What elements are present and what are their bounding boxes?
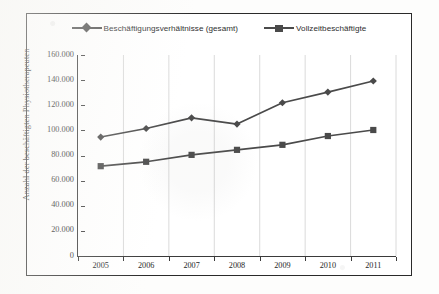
x-tick-mark bbox=[396, 257, 397, 261]
x-tick-mark bbox=[260, 257, 261, 261]
x-tick-mark bbox=[78, 257, 79, 261]
x-tick-label: 2006 bbox=[124, 261, 168, 270]
legend-label-vollzeit: Vollzeitbeschäftigte bbox=[294, 24, 366, 33]
data-point-diamond bbox=[370, 77, 377, 84]
data-point-square bbox=[234, 147, 240, 153]
plot-area bbox=[78, 55, 396, 256]
series-vollzeit bbox=[98, 127, 377, 169]
data-point-square bbox=[279, 142, 285, 148]
x-tick-label: 2008 bbox=[215, 261, 259, 270]
y-axis-line bbox=[77, 55, 78, 257]
y-tick-mark bbox=[81, 231, 85, 232]
diamond-marker-icon bbox=[72, 23, 102, 33]
x-tick-label: 2007 bbox=[170, 261, 214, 270]
x-tick-mark bbox=[305, 257, 306, 261]
x-tick-mark bbox=[214, 257, 215, 261]
chart-legend: Beschäftigungsverhältnisse (gesamt) Voll… bbox=[27, 23, 411, 33]
y-tick-mark bbox=[81, 105, 85, 106]
x-tick-mark bbox=[351, 257, 352, 261]
x-axis-tick-labels: 2005200620072008200920102011 bbox=[78, 261, 396, 277]
legend-item-gesamt: Beschäftigungsverhältnisse (gesamt) bbox=[72, 23, 238, 33]
legend-label-gesamt: Beschäftigungsverhältnisse (gesamt) bbox=[102, 24, 238, 33]
data-point-square bbox=[98, 163, 104, 169]
x-tick-label: 2011 bbox=[351, 261, 395, 270]
y-tick-label: 20.000 bbox=[12, 225, 74, 234]
data-point-diamond bbox=[233, 120, 240, 127]
series-line bbox=[101, 81, 374, 137]
y-tick-label: 0 bbox=[12, 251, 74, 260]
data-point-diamond bbox=[188, 114, 195, 121]
data-point-diamond bbox=[324, 88, 331, 95]
data-point-diamond bbox=[279, 99, 286, 106]
data-point-square bbox=[370, 127, 376, 133]
data-point-square bbox=[325, 133, 331, 139]
y-tick-mark bbox=[81, 206, 85, 207]
data-point-square bbox=[188, 152, 194, 158]
data-point-diamond bbox=[97, 133, 104, 140]
square-marker-icon bbox=[264, 23, 294, 33]
y-tick-mark bbox=[81, 55, 85, 56]
x-tick-label: 2009 bbox=[260, 261, 304, 270]
legend-item-vollzeit: Vollzeitbeschäftigte bbox=[264, 23, 366, 33]
y-tick-mark bbox=[81, 156, 85, 157]
series-gesamt bbox=[97, 77, 377, 140]
x-tick-mark bbox=[123, 257, 124, 261]
y-tick-mark bbox=[81, 80, 85, 81]
chart-plot-svg bbox=[78, 55, 396, 256]
y-tick-mark bbox=[81, 130, 85, 131]
data-point-diamond bbox=[143, 125, 150, 132]
x-tick-label: 2010 bbox=[306, 261, 350, 270]
x-tick-label: 2005 bbox=[79, 261, 123, 270]
y-tick-mark bbox=[81, 181, 85, 182]
data-point-square bbox=[143, 159, 149, 165]
y-axis-tick-labels: 160.000140.000120.000100.00080.00060.000… bbox=[8, 0, 74, 294]
x-axis-line bbox=[77, 256, 396, 257]
x-tick-mark bbox=[169, 257, 170, 261]
y-axis-title: Anzahl der beschäftigten Physiotherapeut… bbox=[22, 37, 31, 213]
